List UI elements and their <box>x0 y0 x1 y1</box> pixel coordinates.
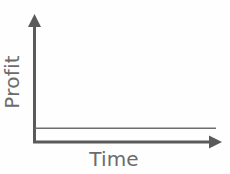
y-axis-label: Profit <box>0 46 24 118</box>
x-axis-label: Time <box>0 147 229 171</box>
chart-figure: Profit Time <box>0 0 230 174</box>
arrow-up-icon <box>28 14 41 27</box>
